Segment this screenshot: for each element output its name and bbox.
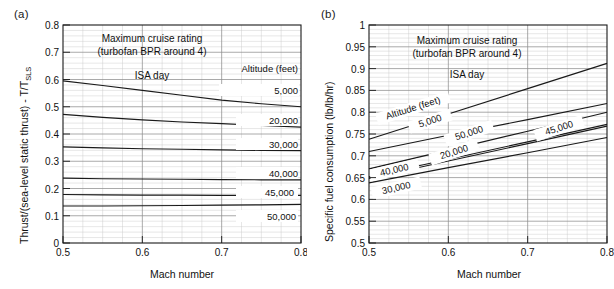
panel-a-y-ticks: 0.8 0.7 0.6 0.5 0.4 0.3 0.2 0.1 0 [45,20,70,249]
panel-a-ytick-0.7: 0.7 [45,47,59,58]
panel-b-ytick-0.75: 0.75 [346,129,366,140]
panel-a-label-5000: 5,000 [274,85,298,96]
panel-a: (a) Thrust/(sea-level static thrust) - T… [0,0,307,289]
panel-b-ytick-0.85: 0.85 [346,85,366,96]
panel-b-xtick-0.5: 0.5 [362,247,376,258]
panel-a-note-line3: ISA day [135,70,169,81]
panel-b-note-line3: ISA day [450,69,484,80]
panel-a-xtick-0.6: 0.6 [135,247,149,258]
panel-a-ytick-0.1: 0.1 [45,211,59,222]
panel-b-ytick-0.65: 0.65 [346,173,366,184]
figure-container: (a) Thrust/(sea-level static thrust) - T… [0,0,614,289]
panel-b-ytick-0.95: 0.95 [346,42,366,53]
panel-a-notes: Maximum cruise rating (turbofan BPR arou… [98,33,207,81]
panel-a-label-20000: 20,000 [269,115,298,126]
panel-a-ytick-0.3: 0.3 [45,156,59,167]
panel-b-y-ticks: 1 0.95 0.9 0.85 0.8 0.75 0.7 0.65 0.6 0.… [346,20,376,249]
panel-b-ytick-0.9: 0.9 [351,64,365,75]
panel-b-xtick-0.8: 0.8 [600,247,614,258]
panel-a-note-line2: (turbofan BPR around 4) [98,46,207,57]
panel-b-ytick-0.7: 0.7 [351,151,365,162]
panel-a-xtick-0.8: 0.8 [294,247,307,258]
panel-b-ytick-0.55: 0.55 [346,216,366,227]
panel-a-label-30000: 30,000 [269,139,298,150]
panel-b-note-line1: Maximum cruise rating [417,35,518,46]
panel-b-xtick-0.7: 0.7 [521,247,535,258]
panel-b-plot: Maximum cruise rating (turbofan BPR arou… [307,0,614,289]
panel-a-ytick-0.4: 0.4 [45,129,59,140]
panel-b: (b) Specific fuel consumption (lb/lb/hr)… [307,0,614,289]
panel-a-label-50000: 50,000 [267,211,296,222]
panel-a-label-40000: 40,000 [269,168,298,179]
panel-a-legend-title: Altitude (feet) [242,63,299,74]
panel-b-ytick-0.8: 0.8 [351,107,365,118]
panel-b-notes: Maximum cruise rating (turbofan BPR arou… [413,35,522,80]
panel-b-ytick-0.6: 0.6 [351,194,365,205]
panel-a-label-45000: 45,000 [265,187,294,198]
panel-a-series-labels: Altitude (feet) 5,000 20,000 30,000 40,0… [219,63,299,222]
panel-a-x-ticks: 0.5 0.6 0.7 0.8 [56,236,307,258]
panel-b-ytick-1: 1 [359,20,365,31]
panel-a-xtick-0.7: 0.7 [215,247,229,258]
panel-a-ytick-0.6: 0.6 [45,75,59,86]
panel-b-note-line2: (turbofan BPR around 4) [413,48,522,59]
panel-b-xtick-0.6: 0.6 [441,247,455,258]
panel-a-ytick-0.8: 0.8 [45,20,59,31]
panel-a-plot: Maximum cruise rating (turbofan BPR arou… [0,0,307,289]
panel-a-ytick-0.5: 0.5 [45,102,59,113]
panel-a-note-line1: Maximum cruise rating [102,33,203,44]
panel-a-ytick-0.2: 0.2 [45,184,59,195]
panel-a-xtick-0.5: 0.5 [56,247,70,258]
